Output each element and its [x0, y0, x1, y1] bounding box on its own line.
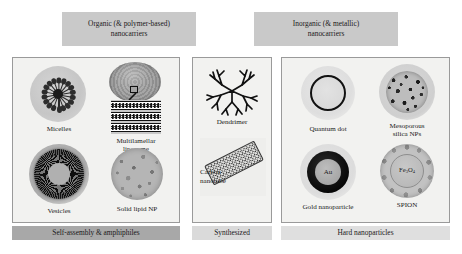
header-organic-line1: Organic (& polymer-based): [88, 19, 170, 29]
lipid-bilayer-layer: [111, 123, 161, 132]
header-inorganic-line2: nanocarriers: [308, 29, 345, 39]
dendrimer-label: Dendrimer: [204, 118, 260, 127]
gold-nanoparticle-label: Gold nanoparticle: [286, 203, 370, 212]
item-micelles: Micelles: [23, 66, 95, 134]
mesoporous-silica-illustration: [379, 64, 435, 120]
solid-lipid-np-illustration: [111, 148, 163, 200]
liposome-label-line1: Multilamellar: [116, 137, 155, 145]
header-organic-line2: nanocarriers: [111, 29, 148, 39]
spion-label: SPION: [375, 201, 439, 210]
item-quantum-dot: Quantum dot: [292, 66, 364, 134]
vesicle-illustration: [29, 144, 89, 204]
gold-core-symbol: Au: [324, 169, 333, 176]
mesoporous-silica-label-line2: silica NPs: [393, 130, 422, 138]
solid-lipid-np-body: [111, 148, 163, 200]
item-mesoporous-silica-nps: Mesoporous silica NPs: [373, 64, 441, 139]
micelle-core: [53, 89, 63, 99]
gold-nanoparticle-core: Au: [315, 159, 341, 185]
nanocarrier-classification-figure: Organic (& polymer-based) nanocarriers I…: [0, 0, 462, 254]
lipid-bilayer-layer: [111, 101, 161, 110]
item-multilamellar-liposome: Multilamellar liposome: [101, 62, 171, 154]
quantum-dot-label: Quantum dot: [292, 125, 364, 134]
vesicles-label: Vesicles: [21, 207, 97, 216]
liposome-bilayer-stack: [111, 100, 161, 134]
spion-iron-oxide-core: Fe3O4: [390, 154, 424, 188]
carbon-nanotube-label-line1: Carbon: [200, 168, 221, 176]
footer-self-assembly-amphiphiles: Self-assembly & amphiphiles: [12, 226, 180, 240]
header-inorganic-nanocarriers: Inorganic (& metallic) nanocarriers: [254, 12, 398, 46]
lipid-bilayer-layer: [111, 112, 161, 121]
spion-illustration: Fe3O4: [380, 144, 434, 198]
solid-lipid-np-label: Solid lipid NP: [101, 205, 173, 214]
item-dendrimer: Dendrimer: [204, 66, 260, 127]
item-vesicles: Vesicles: [21, 144, 97, 216]
carbon-nanotube-label: Carbon nanotube: [200, 168, 252, 186]
item-carbon-nanotube: Carbon nanotube: [199, 138, 267, 196]
spion-symbol-o-sub: 4: [413, 169, 415, 174]
panel-inorganic-nanocarriers: Quantum dot Mesoporous silica NPs Au Gol: [281, 57, 450, 223]
mesoporous-silica-label: Mesoporous silica NPs: [373, 122, 441, 139]
header-inorganic-line1: Inorganic (& metallic): [293, 19, 359, 29]
mesoporous-silica-label-line1: Mesoporous: [389, 122, 424, 130]
dendrimer-illustration: [204, 66, 260, 116]
footer-hard-nanoparticles: Hard nanoparticles: [281, 226, 450, 240]
micelle-illustration: [30, 66, 88, 124]
vesicle-lumen: [48, 163, 70, 185]
item-spion: Fe3O4 SPION: [375, 144, 439, 210]
quantum-dot-illustration: [301, 66, 355, 120]
spion-core-symbol: Fe3O4: [399, 167, 415, 174]
liposome-illustration: [103, 62, 169, 136]
item-gold-nanoparticle: Au Gold nanoparticle: [286, 144, 370, 212]
footer-synthesized: Synthesized: [192, 226, 272, 240]
quantum-dot-shell: [310, 75, 346, 111]
carbon-nanotube-illustration: Carbon nanotube: [200, 138, 266, 196]
panel-organic-nanocarriers: Micelles Multilamellar liposome: [12, 57, 180, 223]
micelles-label: Micelles: [23, 125, 95, 134]
spion-symbol-fe: Fe: [399, 166, 406, 173]
liposome-callout-marker: [130, 86, 138, 93]
panel-synthesized-nanocarriers: Dendrimer Carbon nanotube: [192, 57, 272, 223]
dendrimer-branches: [204, 66, 260, 116]
carbon-nanotube-label-line2: nanotube: [200, 177, 226, 185]
item-solid-lipid-np: Solid lipid NP: [101, 148, 173, 214]
header-organic-nanocarriers: Organic (& polymer-based) nanocarriers: [62, 12, 196, 46]
mesoporous-silica-porous-core: [386, 71, 428, 113]
gold-nanoparticle-illustration: Au: [300, 144, 356, 200]
